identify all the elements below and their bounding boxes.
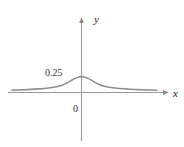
peak-value-label: 0.25 — [45, 68, 63, 78]
x-axis-label: x — [173, 88, 178, 99]
origin-label: 0 — [73, 104, 78, 114]
bell-curve — [12, 77, 157, 91]
plot-canvas — [0, 0, 184, 147]
y-axis-label: y — [94, 14, 99, 25]
math-figure: y x 0.25 0 — [0, 0, 184, 147]
